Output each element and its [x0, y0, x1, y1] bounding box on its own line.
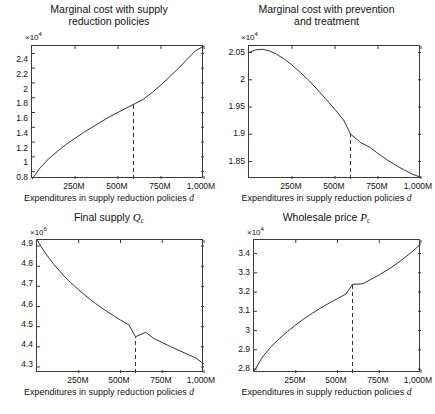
panel-marginal-cost-prevention-treatment: Marginal cost with prevention and treatm…: [218, 0, 435, 207]
panel-1-ytick-0.8: 0.8: [3, 172, 28, 182]
panel-1-xtick-250M: 250M: [63, 181, 84, 191]
panel-3-ytick-4.5: 4.5: [8, 319, 33, 329]
panel-3-title-sub: c: [141, 216, 144, 225]
panel-3-curve: [37, 240, 204, 364]
panel-4-title-sub: c: [367, 216, 370, 225]
panel-2-curve: [249, 49, 421, 177]
panel-2-title: Marginal cost with prevention and treatm…: [218, 4, 435, 27]
panel-4-plot-area: [253, 239, 420, 372]
panel-final-supply: Final supply Qc ×106 4.9 4.8 4.7 4.6 4.5…: [0, 207, 218, 414]
panel-4-ytick-2.8: 2.8: [225, 363, 250, 373]
panel-3-xtick-1000M: 1,000M: [187, 375, 215, 385]
panel-1-ytick-1.8: 1.8: [3, 98, 28, 108]
panel-4-xtick-500M: 500M: [325, 375, 346, 385]
panel-2-ytick-2: 2: [218, 74, 245, 84]
panel-4-title: Wholesale price Pc: [218, 212, 435, 226]
panel-3-title-var: Q: [133, 211, 141, 223]
panel-4-xtick-1000M: 1,000M: [404, 375, 432, 385]
panel-2-xlabel: Expenditures in supply reduction policie…: [218, 193, 435, 203]
panel-2-ytick-1.95: 1.95: [218, 101, 245, 111]
panel-1-title-line2: reduction policies: [0, 16, 218, 28]
panel-3-ytick-4.3: 4.3: [8, 359, 33, 369]
panel-1-ytick-1.6: 1.6: [3, 113, 28, 123]
panel-4-ytick-2.9: 2.9: [225, 344, 250, 354]
panel-2-xtick-750M: 750M: [366, 181, 387, 191]
panel-3-xtick-250M: 250M: [67, 375, 88, 385]
panel-1-xtick-500M: 500M: [106, 181, 127, 191]
panel-3-ytick-4.7: 4.7: [8, 278, 33, 288]
panel-3-title: Final supply Qc: [0, 212, 218, 226]
panel-2-ytick-1.85: 1.85: [218, 156, 245, 166]
panel-3-ytick-4.8: 4.8: [8, 258, 33, 268]
panel-3-ytick-4.4: 4.4: [8, 339, 33, 349]
panel-4-ytick-3.1: 3.1: [225, 305, 250, 315]
panel-1-ytick-1.4: 1.4: [3, 128, 28, 138]
panel-3-xlabel: Expenditures in supply reduction policie…: [0, 387, 218, 397]
panel-1-y-exponent: ×104: [25, 31, 42, 42]
panel-4-title-var: P: [360, 211, 367, 223]
panel-3-xtick-750M: 750M: [150, 375, 171, 385]
panel-2-title-line1: Marginal cost with prevention: [218, 4, 435, 16]
panel-1-xtick-750M: 750M: [149, 181, 170, 191]
panel-4-ytick-3.2: 3.2: [225, 286, 250, 296]
panel-4-svg: [254, 240, 421, 373]
panel-2-svg: [249, 46, 421, 179]
panel-2-plot-area: [248, 45, 420, 178]
panel-1-ytick-2: 2: [3, 84, 28, 94]
panel-2-ytick-1.9: 1.9: [218, 128, 245, 138]
panel-3-plot-area: [36, 239, 203, 372]
panel-4-y-exponent: ×104: [247, 226, 264, 237]
panel-2-ytick-2.05: 2.05: [218, 47, 245, 57]
panel-1-ytick-1.2: 1.2: [3, 143, 28, 153]
panel-3-svg: [37, 240, 204, 373]
panel-2-xtick-250M: 250M: [280, 181, 301, 191]
panel-4-ytick-3: 3: [225, 325, 250, 335]
panel-4-curve: [254, 244, 421, 372]
panel-marginal-cost-supply-reduction: Marginal cost with supply reduction poli…: [0, 0, 218, 207]
panel-2-y-exponent: ×104: [241, 31, 258, 42]
panel-1-xlabel: Expenditures in supply reduction policie…: [0, 193, 218, 203]
panel-3-xtick-500M: 500M: [108, 375, 129, 385]
panel-1-ytick-1: 1: [3, 157, 28, 167]
panel-4-xlabel: Expenditures in supply reduction policie…: [218, 387, 435, 397]
panel-2-xtick-500M: 500M: [323, 181, 344, 191]
panel-1-title-line1: Marginal cost with supply: [0, 4, 218, 16]
panel-4-title-prefix: Wholesale price: [283, 211, 358, 223]
panel-1-ytick-2.2: 2.2: [3, 69, 28, 79]
panel-4-xtick-250M: 250M: [284, 375, 305, 385]
panel-3-ytick-4.6: 4.6: [8, 299, 33, 309]
panel-1-ytick-2.4: 2.4: [3, 54, 28, 64]
figure-grid: Marginal cost with supply reduction poli…: [0, 0, 435, 414]
panel-4-ytick-3.3: 3.3: [225, 267, 250, 277]
panel-1-svg: [32, 46, 204, 179]
panel-3-y-exponent: ×106: [30, 226, 47, 237]
panel-1-title: Marginal cost with supply reduction poli…: [0, 4, 218, 27]
panel-1-curve: [32, 46, 204, 179]
panel-1-xtick-1000M: 1,000M: [187, 181, 215, 191]
panel-3-title-prefix: Final supply: [74, 211, 130, 223]
panel-1-plot-area: [31, 45, 203, 178]
panel-4-ytick-3.4: 3.4: [225, 248, 250, 258]
panel-2-xtick-1000M: 1,000M: [404, 181, 432, 191]
panel-2-title-line2: and treatment: [218, 16, 435, 28]
panel-3-ytick-4.9: 4.9: [8, 238, 33, 248]
panel-wholesale-price: Wholesale price Pc ×104 3.4 3.3 3.2 3.1 …: [218, 207, 435, 414]
panel-4-xtick-750M: 750M: [367, 375, 388, 385]
